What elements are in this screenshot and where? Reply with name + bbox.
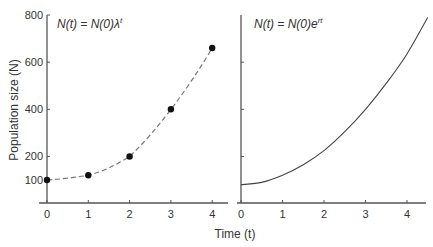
right-panel-plot — [241, 17, 428, 184]
x-tick-label: 0 — [238, 208, 244, 220]
x-tick-label: 4 — [404, 208, 410, 220]
exponential-curve — [241, 17, 428, 184]
left-panel-equation: N(t) = N(0)λt — [57, 16, 123, 31]
y-tick-label: 800 — [25, 9, 43, 21]
y-tick-label: 400 — [25, 103, 43, 115]
left-panel-plot — [44, 45, 216, 183]
x-tick-label: 2 — [127, 208, 133, 220]
x-tick-label: 3 — [168, 208, 174, 220]
x-tick-label: 3 — [362, 208, 368, 220]
y-tick-label: 600 — [25, 56, 43, 68]
left-panel-axes: 01234100200400600800 — [25, 9, 228, 220]
chart-canvas: 01234100200400600800 01234 N(t) = N(0)λt… — [0, 0, 433, 247]
x-axis-title: Time (t) — [215, 227, 256, 241]
y-tick-label: 100 — [25, 174, 43, 186]
x-tick-label: 1 — [85, 208, 91, 220]
x-tick-label: 0 — [44, 208, 50, 220]
x-tick-label: 1 — [279, 208, 285, 220]
x-tick-label: 4 — [209, 208, 215, 220]
data-point-marker — [126, 153, 132, 159]
right-panel-axes: 01234 — [237, 15, 426, 220]
data-point-marker — [85, 172, 91, 178]
data-point-marker — [209, 45, 215, 51]
y-axis-title: Population size (N) — [7, 59, 21, 160]
data-point-marker — [168, 106, 174, 112]
x-tick-label: 2 — [321, 208, 327, 220]
data-point-marker — [44, 177, 50, 183]
right-panel-equation: N(t) = N(0)ert — [254, 16, 323, 31]
dashed-series-line — [47, 48, 212, 180]
y-tick-label: 200 — [25, 150, 43, 162]
